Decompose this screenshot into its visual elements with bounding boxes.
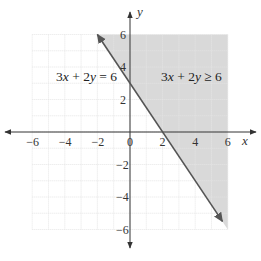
y-tick-label: 4 (120, 60, 126, 74)
inequality-graph: 3x + 2y = 6 3x + 2y ≥ 6 x y −6−4−20246−6… (0, 0, 261, 261)
y-tick-label: −4 (116, 190, 129, 204)
region-inequality-label: 3x + 2y ≥ 6 (161, 69, 222, 84)
x-tick-label: −2 (91, 135, 104, 149)
y-tick-label: −6 (116, 223, 129, 237)
line-equation-label: 3x + 2y = 6 (56, 69, 117, 84)
y-tick-label: 2 (120, 93, 126, 107)
y-tick-label: −2 (116, 158, 129, 172)
x-tick-label: 6 (225, 135, 231, 149)
x-axis-label: x (241, 133, 248, 148)
x-tick-label: 2 (160, 135, 166, 149)
x-tick-label: 0 (127, 135, 133, 149)
x-tick-label: −6 (26, 135, 39, 149)
y-tick-label: 6 (120, 28, 126, 42)
y-axis-label: y (135, 4, 143, 19)
x-tick-label: 4 (192, 135, 198, 149)
x-tick-label: −4 (59, 135, 72, 149)
